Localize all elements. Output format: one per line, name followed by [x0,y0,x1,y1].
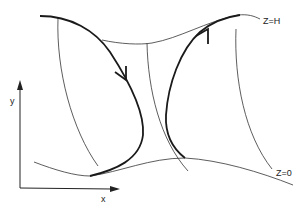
top-surface-label: Z=H [263,16,280,26]
y-axis-arrow-icon [17,80,23,90]
flow-diagram: y x Z=H Z=0 [0,0,307,211]
x-axis [20,188,112,189]
y-axis-label: y [10,96,15,106]
left-vertical-line [58,18,98,166]
x-axis-label: x [101,194,106,204]
bottom-surface-curve [34,158,293,185]
right-trajectory [166,15,240,158]
bottom-surface-label: Z=0 [276,168,292,178]
left-trajectory [40,16,143,176]
x-axis-arrow-icon [110,186,120,192]
right-vertical-line [236,29,272,169]
